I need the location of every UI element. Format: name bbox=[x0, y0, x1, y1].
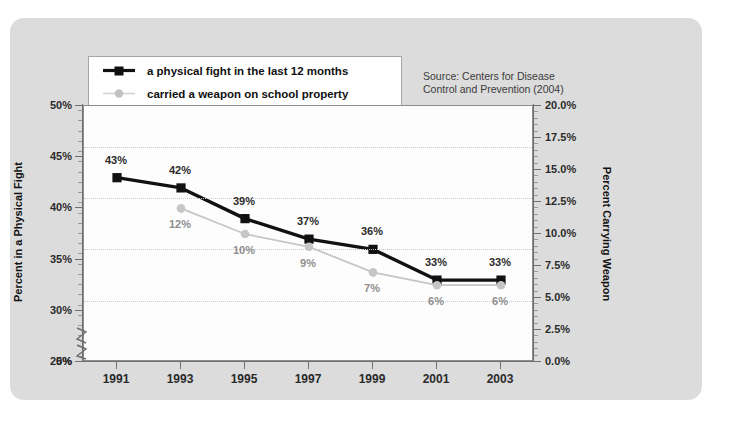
right-tick bbox=[534, 329, 541, 330]
right-minor-tick bbox=[534, 182, 538, 183]
data-point-marker bbox=[112, 173, 121, 182]
right-minor-tick bbox=[534, 188, 538, 189]
left-tick-label: 40% bbox=[50, 201, 72, 213]
right-minor-tick bbox=[534, 131, 538, 132]
legend-label-physical-fight: a physical fight in the last 12 months bbox=[147, 65, 348, 77]
right-minor-tick bbox=[534, 124, 538, 125]
right-tick bbox=[534, 361, 541, 362]
right-tick bbox=[534, 233, 541, 234]
data-point-marker bbox=[304, 235, 313, 244]
right-minor-tick bbox=[534, 150, 538, 151]
left-minor-tick bbox=[78, 223, 82, 224]
right-minor-tick bbox=[534, 118, 538, 119]
gridline-35 bbox=[84, 249, 532, 250]
right-minor-tick bbox=[534, 239, 538, 240]
data-label: 36% bbox=[361, 225, 383, 237]
left-minor-tick bbox=[78, 274, 82, 275]
left-minor-tick bbox=[78, 120, 82, 121]
left-minor-tick bbox=[78, 131, 82, 132]
right-tick bbox=[534, 297, 541, 298]
right-minor-tick bbox=[534, 303, 538, 304]
right-tick-label: 17.5% bbox=[545, 131, 576, 143]
legend-item-physical-fight: a physical fight in the last 12 months bbox=[89, 58, 401, 83]
right-minor-tick bbox=[534, 271, 538, 272]
left-tick bbox=[75, 259, 82, 260]
data-label: 9% bbox=[300, 257, 316, 269]
right-minor-tick bbox=[534, 252, 538, 253]
right-minor-tick bbox=[534, 214, 538, 215]
left-tick-label: 0% bbox=[56, 355, 72, 367]
right-tick bbox=[534, 201, 541, 202]
x-tick bbox=[116, 361, 117, 369]
right-minor-tick bbox=[534, 207, 538, 208]
x-tick-label: 2001 bbox=[423, 372, 450, 386]
right-tick-label: 5.0% bbox=[545, 291, 570, 303]
right-minor-tick bbox=[534, 195, 538, 196]
left-tick-label: 45% bbox=[50, 150, 72, 162]
x-tick-label: 1997 bbox=[295, 372, 322, 386]
data-point-marker bbox=[433, 281, 442, 290]
chart-legend: a physical fight in the last 12 months c… bbox=[88, 56, 402, 106]
left-minor-tick bbox=[78, 151, 82, 152]
x-tick-label: 1995 bbox=[231, 372, 258, 386]
right-tick-label: 15.0% bbox=[545, 163, 576, 175]
data-label: 33% bbox=[425, 256, 447, 268]
data-point-marker bbox=[177, 204, 186, 213]
left-axis-ticks: 50%45%40%35%30%25%0% bbox=[0, 0, 82, 429]
right-minor-tick bbox=[534, 259, 538, 260]
right-tick bbox=[534, 169, 541, 170]
gridline-30 bbox=[84, 301, 532, 302]
data-label: 10% bbox=[233, 244, 255, 256]
left-minor-tick bbox=[78, 315, 82, 316]
right-tick-label: 7.5% bbox=[545, 259, 570, 271]
data-label: 39% bbox=[233, 195, 255, 207]
data-label: 33% bbox=[489, 256, 511, 268]
right-tick bbox=[534, 105, 541, 106]
data-label: 37% bbox=[297, 215, 319, 227]
left-tick bbox=[75, 310, 82, 311]
data-point-marker bbox=[176, 183, 185, 192]
right-minor-tick bbox=[534, 156, 538, 157]
right-minor-tick bbox=[534, 335, 538, 336]
right-minor-tick bbox=[534, 291, 538, 292]
data-point-marker bbox=[240, 214, 249, 223]
left-tick bbox=[75, 207, 82, 208]
left-minor-tick bbox=[78, 202, 82, 203]
right-tick bbox=[534, 137, 541, 138]
right-minor-tick bbox=[534, 323, 538, 324]
data-label: 6% bbox=[492, 295, 508, 307]
left-tick bbox=[75, 156, 82, 157]
data-label: 42% bbox=[169, 164, 191, 176]
right-minor-tick bbox=[534, 355, 538, 356]
left-minor-tick bbox=[78, 284, 82, 285]
gridline-45 bbox=[84, 147, 532, 148]
left-minor-tick bbox=[78, 172, 82, 173]
data-label: 43% bbox=[105, 154, 127, 166]
right-minor-tick bbox=[534, 227, 538, 228]
right-tick-label: 2.5% bbox=[545, 323, 570, 335]
left-tick bbox=[75, 361, 82, 362]
data-label: 12% bbox=[169, 218, 191, 230]
right-minor-tick bbox=[534, 316, 538, 317]
right-tick-label: 20.0% bbox=[545, 99, 576, 111]
left-minor-tick bbox=[78, 243, 82, 244]
series-line-1 bbox=[181, 208, 501, 285]
plot-area bbox=[83, 105, 533, 361]
left-tick-label: 35% bbox=[50, 253, 72, 265]
right-minor-tick bbox=[534, 175, 538, 176]
right-axis-ticks: 20.0%17.5%15.0%12.5%10.0%7.5%5.0%2.5%0.0… bbox=[534, 0, 654, 429]
x-tick bbox=[372, 361, 373, 369]
left-minor-tick bbox=[78, 141, 82, 142]
data-point-marker bbox=[497, 281, 506, 290]
right-minor-tick bbox=[534, 246, 538, 247]
left-minor-tick bbox=[78, 182, 82, 183]
left-minor-tick bbox=[78, 192, 82, 193]
left-minor-tick bbox=[78, 233, 82, 234]
right-tick-label: 0.0% bbox=[545, 355, 570, 367]
right-minor-tick bbox=[534, 284, 538, 285]
left-tick-label: 50% bbox=[50, 99, 72, 111]
left-minor-tick bbox=[78, 110, 82, 111]
right-minor-tick bbox=[534, 220, 538, 221]
series-plot bbox=[84, 106, 534, 362]
x-tick bbox=[500, 361, 501, 369]
